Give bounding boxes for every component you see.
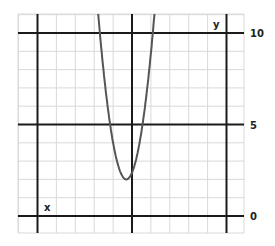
y-axis-label: y (213, 19, 220, 30)
x-axis-label: x (44, 202, 51, 213)
major-grid (18, 14, 244, 233)
parabola-curve (98, 14, 154, 179)
parabola-chart: y x 10 5 0 (0, 0, 275, 246)
y-tick-5: 5 (250, 120, 257, 131)
y-tick-10: 10 (250, 28, 264, 39)
y-tick-0: 0 (250, 211, 257, 222)
